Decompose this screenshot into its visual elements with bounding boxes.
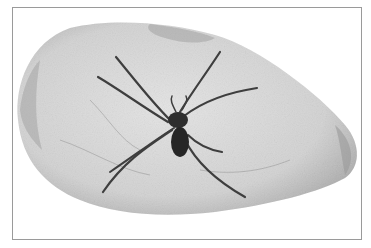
- photograph: [0, 0, 371, 248]
